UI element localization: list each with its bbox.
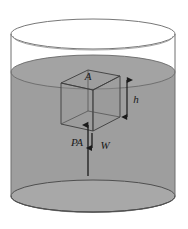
buoyancy-figure: A h PA W	[0, 0, 188, 229]
figure-canvas: A h PA W	[0, 0, 188, 229]
depth-label: h	[133, 93, 139, 105]
cylinder-rim-ellipse	[11, 19, 175, 49]
pressure-force-label: PA	[70, 136, 83, 148]
weight-force-label: W	[100, 139, 110, 151]
cube-area-label: A	[84, 70, 92, 82]
